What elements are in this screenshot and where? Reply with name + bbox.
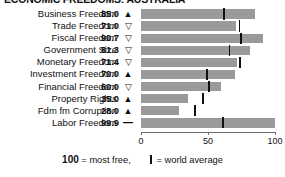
row-plot-area xyxy=(141,32,275,44)
chart-row: Business Freedom85.0▲ xyxy=(0,8,285,20)
row-score-value: 70.0 xyxy=(96,68,119,80)
score-bar xyxy=(141,70,235,79)
down-triangle-hollow-icon: ▽ xyxy=(122,56,134,68)
up-triangle-filled-icon: ▲ xyxy=(122,68,134,80)
axis-tick-label: 100 xyxy=(267,136,282,146)
chart-legend: 100 = most free, = world average xyxy=(0,154,285,165)
world-average-marker xyxy=(239,57,241,68)
score-bar xyxy=(141,46,250,55)
world-average-marker xyxy=(239,20,241,31)
chart-row: Fiscal Freedom90.7▽ xyxy=(0,32,285,44)
row-plot-area xyxy=(141,20,275,32)
row-plot-area xyxy=(141,8,275,20)
world-average-marker xyxy=(223,8,225,19)
row-score-value: 71.0 xyxy=(96,20,119,32)
chart-row: Trade Freedom71.0▽ xyxy=(0,20,285,32)
up-triangle-filled-icon: ▲ xyxy=(122,105,134,117)
dash-icon: — xyxy=(122,117,134,129)
row-score-value: 99.9 xyxy=(96,117,119,129)
row-score-value: 90.7 xyxy=(96,32,119,44)
chart-row: Fdm fm Corruption28.0▲ xyxy=(0,105,285,117)
row-plot-area xyxy=(141,68,275,80)
axis-tick xyxy=(208,132,209,135)
score-bar xyxy=(141,21,236,30)
chart-row: Financial Freedom60.0▽ xyxy=(0,81,285,93)
row-score-value: 81.3 xyxy=(96,44,119,56)
row-plot-area xyxy=(141,117,275,129)
score-bar xyxy=(141,94,188,103)
row-score-value: 85.0 xyxy=(96,8,119,20)
world-average-marker xyxy=(229,45,231,56)
row-score-value: 28.0 xyxy=(96,105,119,117)
legend-world-average-text: = world average xyxy=(154,155,223,165)
row-score-value: 60.0 xyxy=(96,81,119,93)
row-plot-area xyxy=(141,81,275,93)
row-score-value: 35.0 xyxy=(96,93,119,105)
world-average-marker xyxy=(222,117,224,128)
axis-tick xyxy=(141,132,142,135)
axis-tick-label: 0 xyxy=(138,136,143,146)
chart-row: Property Rights35.0▲ xyxy=(0,93,285,105)
up-triangle-filled-icon: ▲ xyxy=(122,93,134,105)
legend-hundred-value: 100 xyxy=(62,154,79,165)
score-bar xyxy=(141,34,263,43)
row-plot-area xyxy=(141,44,275,56)
chart-row: Labor Freedom99.9— xyxy=(0,117,285,129)
world-average-marker xyxy=(240,33,242,44)
row-score-value: 71.4 xyxy=(96,56,119,68)
chart-title: ECONOMIC FREEDOMS: AUSTRALIA xyxy=(4,0,281,5)
up-triangle-filled-icon: ▲ xyxy=(122,8,134,20)
down-triangle-hollow-icon: ▽ xyxy=(122,20,134,32)
axis-tick xyxy=(275,132,276,135)
score-bar xyxy=(141,9,255,18)
chart-rows: Business Freedom85.0▲Trade Freedom71.0▽F… xyxy=(0,8,285,129)
row-plot-area xyxy=(141,56,275,68)
score-bar xyxy=(141,106,179,115)
chart-row: Monetary Freedom71.4▽ xyxy=(0,56,285,68)
score-bar xyxy=(141,58,237,67)
row-plot-area xyxy=(141,93,275,105)
row-plot-area xyxy=(141,105,275,117)
world-average-marker xyxy=(202,93,204,104)
world-average-marker xyxy=(206,69,208,80)
world-average-marker xyxy=(194,105,196,116)
axis-tick-label: 50 xyxy=(203,136,213,146)
economic-freedoms-chart: ECONOMIC FREEDOMS: AUSTRALIA Business Fr… xyxy=(0,0,285,177)
down-triangle-hollow-icon: ▽ xyxy=(122,81,134,93)
legend-most-free-text: = most free, xyxy=(79,155,131,165)
down-triangle-hollow-icon: ▽ xyxy=(122,32,134,44)
down-triangle-hollow-icon: ▽ xyxy=(122,44,134,56)
world-average-marker xyxy=(208,81,210,92)
world-average-marker-icon xyxy=(150,155,152,164)
chart-row: Government Size81.3▽ xyxy=(0,44,285,56)
chart-row: Investment Freedom70.0▲ xyxy=(0,68,285,80)
score-bar xyxy=(141,118,275,127)
